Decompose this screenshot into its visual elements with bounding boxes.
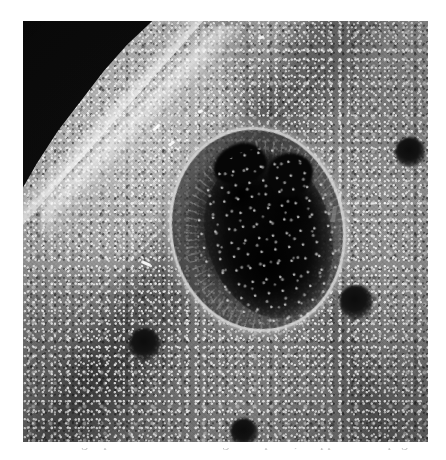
- caption-text: ascending tops of letters of the figure …: [31, 448, 428, 450]
- spot-upper-right: [395, 137, 425, 167]
- figure-page: ascending tops of letters of the figure …: [0, 0, 446, 460]
- spot-lower-left: [129, 328, 161, 360]
- central-lesion: [141, 102, 366, 352]
- spot-bottom: [230, 418, 258, 442]
- caption-strip: ascending tops of letters of the figure …: [23, 448, 428, 460]
- micrograph-plate: [23, 21, 428, 442]
